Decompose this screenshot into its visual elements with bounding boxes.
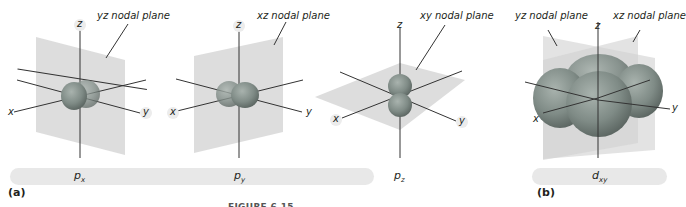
dxy-x-label: x [533, 113, 539, 124]
pz-orbital-name: pz [394, 169, 405, 184]
dxy-xz-nodal-plane-label: xz nodal plane [613, 10, 686, 21]
panel-a-letter: (a) [8, 186, 25, 199]
pz-z-label: z [397, 19, 402, 30]
px-y-label: y [143, 106, 149, 117]
dxy-z-label: z [595, 20, 600, 31]
px-nodal-plane-label: yz nodal plane [97, 10, 170, 21]
pz-x-label: x [333, 113, 339, 124]
pz-nodal-plane-label: xy nodal plane [420, 10, 494, 21]
py-x-label: x [170, 106, 176, 117]
py-orbital-diagram [173, 22, 303, 158]
py-nodal-plane-label: xz nodal plane [257, 10, 330, 21]
pz-y-label: y [459, 115, 465, 126]
py-y-label: y [306, 106, 312, 117]
px-orbital-diagram [14, 24, 147, 158]
px-orbital-name: px [74, 169, 85, 184]
px-x-label: x [8, 106, 14, 117]
figure-caption-truncated: FIGURE 6.15 ... [228, 200, 682, 207]
dxy-orbital-name: dxy [592, 169, 607, 184]
py-orbital-name: py [234, 169, 245, 184]
px-z-label: z [77, 18, 82, 29]
pz-orbital-diagram [315, 25, 465, 158]
dxy-y-label: y [672, 102, 678, 113]
panel-a-orbital-bar [10, 168, 374, 185]
dxy-yz-nodal-plane-label: yz nodal plane [515, 10, 588, 21]
dxy-orbital-diagram [525, 22, 670, 160]
py-z-label: z [236, 19, 241, 30]
panel-b-letter: (b) [537, 186, 555, 199]
